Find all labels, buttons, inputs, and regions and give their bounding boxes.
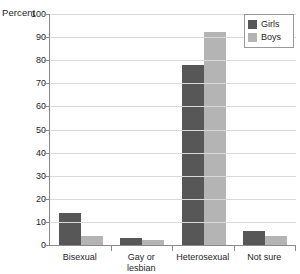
x-axis-label: Bisexual [49,252,111,263]
gridline [50,83,296,84]
y-axis-tick-label: 20 [6,194,46,204]
y-axis-tick-label: 90 [6,32,46,42]
legend-label-girls: Girls [261,19,280,30]
gridline [50,222,296,223]
legend-label-boys: Boys [261,32,281,43]
y-axis-tick-label: 40 [6,148,46,158]
x-axis-label: Gay or lesbian [111,252,173,274]
bar-chart: Percent 1009080706050403020100 BisexualG… [0,0,300,274]
bar-girls-3 [243,231,265,245]
y-axis-tick-mark [44,83,49,84]
y-axis-tick-label: 100 [6,9,46,19]
y-axis-tick-label: 50 [6,125,46,135]
y-axis-tick-mark [44,222,49,223]
gridline [50,60,296,61]
bar-boys-2 [204,32,226,245]
gridline [50,106,296,107]
legend-item-girls: Girls [248,18,289,31]
x-axis-label: Not sure [234,252,296,263]
gridline [50,130,296,131]
bar-boys-3 [265,236,287,245]
x-axis-tick-mark [111,246,112,251]
y-axis-tick-mark [44,245,49,246]
legend-swatch-icon-boys [248,33,257,42]
y-axis-tick-mark [44,130,49,131]
y-axis-tick-mark [44,60,49,61]
x-axis-tick-mark [295,246,296,251]
bar-girls-1 [120,238,142,245]
y-axis-tick-label: 0 [6,240,46,250]
bar-girls-2 [182,65,204,245]
y-axis-tick-label: 70 [6,78,46,88]
y-axis-tick-label: 60 [6,101,46,111]
plot-area [49,14,296,246]
gridline [50,153,296,154]
bar-boys-0 [81,236,103,245]
y-axis-tick-mark [44,37,49,38]
y-axis-tick-label: 80 [6,55,46,65]
legend: Girls Boys [244,14,294,48]
y-axis-tick-mark [44,14,49,15]
legend-swatch-icon-girls [248,20,257,29]
gridline [50,199,296,200]
bar-girls-0 [59,213,81,245]
x-axis-tick-mark [234,246,235,251]
x-axis-tick-mark [172,246,173,251]
y-axis-tick-label: 10 [6,217,46,227]
bar-boys-1 [142,240,164,245]
gridline [50,176,296,177]
x-axis-label: Heterosexual [172,252,234,263]
y-axis-tick-mark [44,153,49,154]
y-axis-tick-mark [44,199,49,200]
y-axis-tick-mark [44,106,49,107]
legend-item-boys: Boys [248,31,289,44]
y-axis-tick-mark [44,176,49,177]
y-axis-tick-label: 30 [6,171,46,181]
